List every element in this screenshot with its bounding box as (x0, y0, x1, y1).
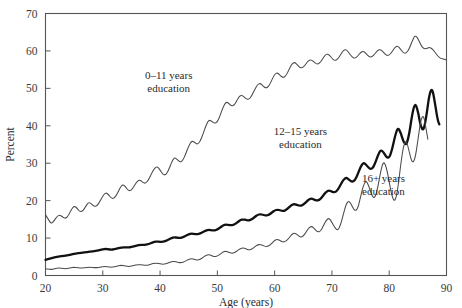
y-tick-label: 50 (26, 82, 38, 94)
x-tick-label: 70 (326, 282, 338, 294)
y-tick-label: 40 (26, 120, 38, 132)
x-tick-label: 30 (97, 282, 109, 294)
plot-frame (46, 14, 447, 276)
y-tick-label: 70 (26, 8, 38, 20)
series-annotation-3-line1: 16+ years (362, 172, 405, 184)
x-tick-label: 60 (269, 282, 281, 294)
series-annotation-2-line2: education (279, 138, 322, 150)
x-tick-label: 40 (154, 282, 166, 294)
series-annotation-3-line2: education (362, 185, 405, 197)
x-axis-title: Age (years) (219, 296, 273, 308)
figure-container: 2030405060708090010203040506070Age (year… (0, 0, 462, 308)
y-tick-label: 0 (32, 270, 38, 282)
y-tick-label: 60 (26, 45, 38, 57)
y-axis-title: Percent (4, 126, 16, 161)
series-annotation-1-line2: education (147, 82, 190, 94)
x-tick-label: 20 (40, 282, 52, 294)
x-tick-label: 50 (212, 282, 224, 294)
x-tick-label: 80 (383, 282, 395, 294)
series-annotation-1-line1: 0–11 years (145, 69, 193, 81)
y-tick-label: 30 (26, 157, 38, 169)
series-annotation-2-line1: 12–15 years (274, 125, 327, 137)
y-tick-label: 10 (26, 232, 38, 244)
line-chart: 2030405060708090010203040506070Age (year… (0, 0, 462, 308)
x-tick-label: 90 (441, 282, 453, 294)
y-tick-label: 20 (26, 195, 38, 207)
